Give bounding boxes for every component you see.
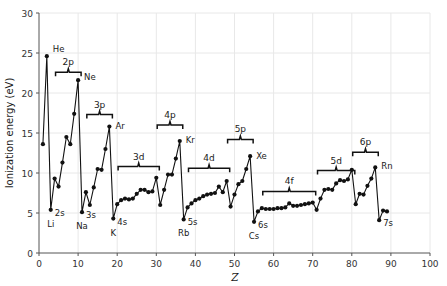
svg-text:3p: 3p: [94, 100, 106, 110]
svg-text:2s: 2s: [55, 208, 65, 218]
svg-text:5d: 5d: [330, 156, 341, 166]
svg-text:0: 0: [36, 259, 42, 269]
svg-text:80: 80: [346, 259, 358, 269]
svg-text:5s: 5s: [188, 217, 198, 227]
svg-text:4p: 4p: [164, 110, 176, 120]
svg-text:Na: Na: [76, 221, 88, 231]
svg-text:15: 15: [22, 129, 33, 139]
svg-text:K: K: [111, 228, 117, 238]
svg-text:10: 10: [22, 169, 34, 179]
svg-text:50: 50: [229, 259, 241, 269]
svg-text:5p: 5p: [235, 124, 247, 134]
svg-text:40: 40: [190, 259, 202, 269]
svg-text:70: 70: [307, 259, 319, 269]
x-axis-title: Z: [230, 271, 239, 283]
y-axis-title: Ionization energy (eV): [4, 78, 15, 189]
svg-text:0: 0: [27, 249, 33, 259]
svg-text:4s: 4s: [117, 217, 127, 227]
svg-text:3s: 3s: [86, 210, 96, 220]
svg-text:4d: 4d: [203, 153, 214, 163]
svg-text:90: 90: [385, 259, 397, 269]
svg-text:20: 20: [22, 89, 34, 99]
svg-text:60: 60: [268, 259, 280, 269]
svg-text:Li: Li: [47, 219, 54, 229]
point-annotations: HeNeArKrXeRnLiNaKRbCs2s3s4s5s6s7s: [47, 44, 393, 241]
svg-text:5: 5: [27, 209, 33, 219]
svg-text:100: 100: [421, 259, 438, 269]
svg-text:Rb: Rb: [178, 228, 189, 238]
svg-text:25: 25: [22, 49, 33, 59]
svg-text:Ne: Ne: [84, 72, 96, 82]
svg-text:20: 20: [111, 259, 123, 269]
svg-text:4f: 4f: [285, 176, 295, 186]
svg-text:2p: 2p: [63, 57, 75, 67]
svg-text:Cs: Cs: [249, 231, 260, 241]
svg-text:6p: 6p: [360, 137, 372, 147]
svg-text:7s: 7s: [383, 218, 393, 228]
svg-text:6s: 6s: [258, 220, 268, 230]
svg-text:Xe: Xe: [256, 151, 267, 161]
svg-text:10: 10: [72, 259, 84, 269]
ionization-energy-chart: 0510152025300102030405060708090100 2p3p3…: [0, 0, 447, 286]
svg-text:Ar: Ar: [115, 121, 125, 131]
svg-text:He: He: [53, 44, 65, 54]
shell-brackets: 2p3p3d4p4d5p4f5d6p: [56, 57, 379, 195]
svg-text:Rn: Rn: [381, 161, 392, 171]
svg-text:30: 30: [22, 9, 34, 19]
plot-area: 0510152025300102030405060708090100 2p3p3…: [0, 0, 447, 286]
svg-text:3d: 3d: [133, 152, 144, 162]
svg-text:Kr: Kr: [186, 135, 196, 145]
svg-text:30: 30: [151, 259, 163, 269]
